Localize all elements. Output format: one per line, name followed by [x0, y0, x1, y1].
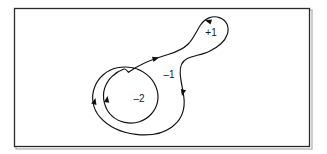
figure-frame: [15, 9, 310, 147]
figure-container: +1 –1 –2: [0, 0, 327, 154]
label-minus-one: –1: [163, 69, 175, 80]
label-plus-one: +1: [205, 27, 217, 38]
label-minus-two: –2: [133, 93, 145, 104]
winding-number-figure: +1 –1 –2: [0, 0, 327, 154]
